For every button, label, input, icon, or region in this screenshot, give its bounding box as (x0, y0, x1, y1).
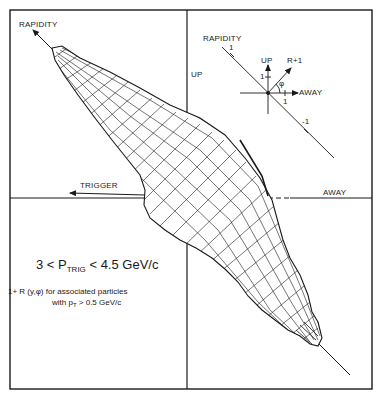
inset-key (222, 47, 334, 158)
trigger-momentum-range: 3 < PTRIG < 4.5 GeV/c (36, 258, 158, 274)
away-axis-label: AWAY (323, 189, 346, 197)
trigger-axis-label: TRIGGER (80, 182, 118, 190)
correlation-surface-diagram (0, 0, 381, 399)
trigger-arrow (70, 193, 145, 195)
inset-up-tick: 1 (260, 73, 265, 81)
inset-rapidity-tick-neg: -1 (302, 118, 310, 126)
caption-line-1: 1+ R (y,φ) for associated particles (8, 288, 128, 296)
inset-up-label: UP (261, 57, 273, 65)
rapidity-axis-label: RAPIDITY (19, 21, 58, 29)
inset-rapidity-tick-pos: 1 (229, 44, 234, 52)
inset-rapidity-label: RAPIDITY (203, 35, 242, 43)
caption-line-2: with pT > 0.5 GeV/c (52, 299, 121, 308)
up-axis-label: UP (191, 71, 203, 79)
rapidity-axis-tail (315, 340, 350, 375)
inset-rapidity-axis (222, 47, 334, 158)
inset-away-label: AWAY (299, 89, 322, 97)
inset-phi-label: φ (279, 80, 284, 88)
inset-away-tick: 1 (283, 98, 288, 106)
inset-r-plus-1-label: R+1 (287, 57, 303, 65)
